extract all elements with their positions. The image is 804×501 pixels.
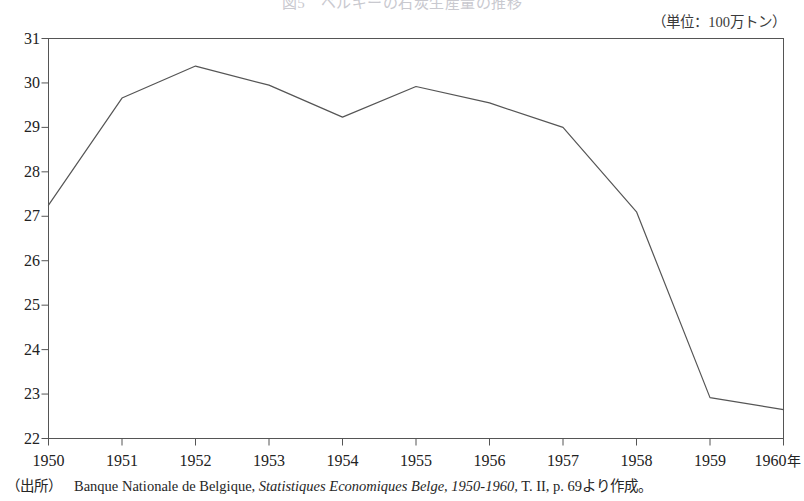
line-chart-plot [0, 0, 804, 501]
x-tick-marks [49, 439, 784, 446]
source-tag: （出所） [6, 478, 62, 494]
source-title-italic: Statistiques Economiques Belge, 1950-196… [259, 478, 518, 494]
y-tick-marks [42, 39, 49, 439]
data-line-coal-production [49, 66, 784, 410]
plot-frame [49, 39, 784, 439]
source-locator: T. II, p. 69より作成。 [521, 478, 652, 494]
figure-container: 図5 ベルギーの石炭生産量の推移 （単位：100万トン） 22232425262… [0, 0, 804, 501]
source-publisher: Banque Nationale de Belgique, [74, 478, 255, 494]
source-note: （出所）Banque Nationale de Belgique, Statis… [6, 479, 652, 495]
